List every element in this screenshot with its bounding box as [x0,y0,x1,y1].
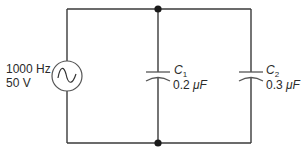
c1-name-label: C1 [174,63,188,79]
source-frequency-label: 1000 Hz [6,62,51,76]
circuit-diagram: 1000 Hz 50 V C1 0.2 μF C2 0.3 μF [0,0,303,158]
ac-source [52,61,82,91]
c2-value-label: 0.3 μF [266,78,301,92]
junction-dot-bottom [154,139,161,146]
c2-name-label: C2 [266,63,280,79]
source-voltage-label: 50 V [6,76,31,90]
junction-dot-top [154,5,161,12]
wires [67,9,251,143]
c1-value-label: 0.2 μF [173,78,208,92]
